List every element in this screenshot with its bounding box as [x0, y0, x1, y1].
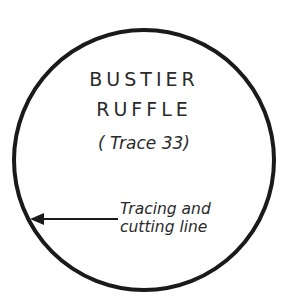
pattern-title-line2: RUFFLE [44, 96, 244, 122]
annotation-line1: Tracing and [120, 200, 240, 218]
pattern-title-line1: BUSTIER [44, 66, 244, 92]
annotation-line2: cutting line [120, 218, 240, 236]
pattern-subtitle: ( Trace 33) [44, 132, 244, 154]
